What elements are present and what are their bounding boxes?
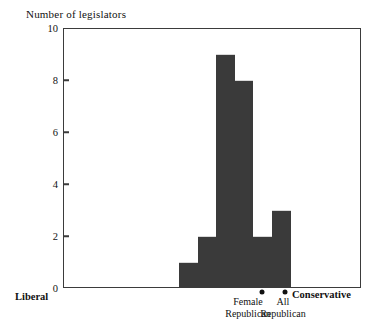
annotation-label-line1: Female (233, 296, 262, 307)
annotation-dot-marker (260, 290, 265, 295)
y-axis-tick-label: 4 (0, 179, 63, 190)
chart-title: Number of legislators (26, 8, 126, 20)
y-axis-tick-label: 8 (0, 75, 63, 86)
bar (216, 54, 235, 288)
annotation-label-line1: All (277, 296, 290, 307)
y-axis-tick-mark (63, 235, 69, 237)
annotation-dot-marker (283, 290, 288, 295)
y-axis-tick-mark (63, 79, 69, 81)
plot-area (63, 28, 361, 288)
axis-label-liberal: Liberal (15, 291, 48, 302)
axis-label-conservative: Conservative (292, 289, 351, 300)
bar (235, 80, 254, 288)
y-axis-tick-label: 2 (0, 231, 63, 242)
chart-root: Number of legislators 0246810 FemaleRepu… (0, 0, 386, 331)
y-axis-tick-mark (63, 183, 69, 185)
bar (253, 236, 272, 288)
y-axis-tick-label: 6 (0, 127, 63, 138)
annotation-label-line2: Republican (260, 308, 306, 320)
bar (198, 236, 217, 288)
bar (179, 262, 198, 288)
y-axis-tick-mark (63, 131, 69, 133)
bar (272, 210, 291, 288)
y-axis-tick-label: 10 (0, 23, 63, 34)
